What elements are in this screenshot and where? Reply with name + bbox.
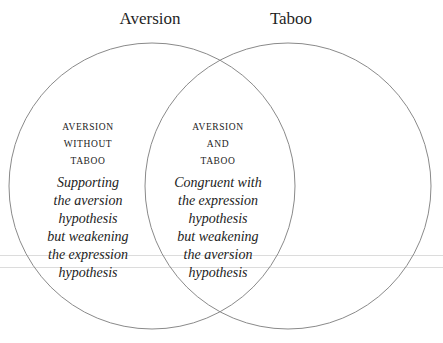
- description-line: Congruent with: [148, 174, 288, 192]
- region-aversion-and-taboo: AVERSION AND TABOO Congruent with the ex…: [148, 119, 288, 282]
- description-line: the aversion: [18, 192, 158, 210]
- region-heading-line: TABOO: [18, 153, 158, 170]
- description-line: Supporting: [18, 174, 158, 192]
- region-heading-line: WITHOUT: [18, 136, 158, 153]
- region-heading-line: AVERSION: [18, 119, 158, 136]
- region-description: Supporting the aversion hypothesis but w…: [18, 174, 158, 282]
- region-heading-line: AND: [148, 136, 288, 153]
- region-heading-line: TABOO: [148, 153, 288, 170]
- description-line: the expression: [148, 192, 288, 210]
- region-description: Congruent with the expression hypothesis…: [148, 174, 288, 282]
- description-line: the expression: [18, 246, 158, 264]
- region-heading-line: AVERSION: [148, 119, 288, 136]
- aversion-set-label: Aversion: [119, 9, 180, 29]
- taboo-set-label: Taboo: [270, 9, 312, 29]
- description-line: the aversion: [148, 246, 288, 264]
- region-aversion-without-taboo: AVERSION WITHOUT TABOO Supporting the av…: [18, 119, 158, 282]
- description-line: hypothesis: [148, 210, 288, 228]
- description-line: but weakening: [18, 228, 158, 246]
- description-line: but weakening: [148, 228, 288, 246]
- description-line: hypothesis: [18, 264, 158, 282]
- description-line: hypothesis: [18, 210, 158, 228]
- description-line: hypothesis: [148, 264, 288, 282]
